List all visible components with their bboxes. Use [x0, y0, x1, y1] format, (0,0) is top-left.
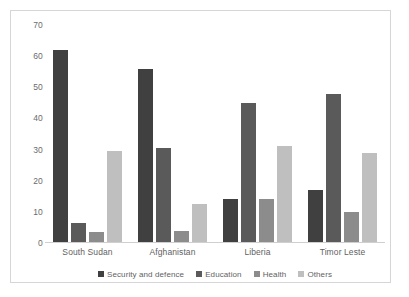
- bar: [192, 204, 207, 243]
- plot-area: [45, 25, 385, 243]
- y-axis-tick-label: 40: [21, 114, 43, 123]
- bar-group: [215, 25, 300, 243]
- bar-group-bars: [300, 25, 385, 243]
- y-axis-tick-label: 10: [21, 207, 43, 216]
- y-axis-tick-label: 20: [21, 176, 43, 185]
- legend-label: Security and defence: [107, 270, 184, 279]
- x-axis-category-label: South Sudan: [45, 245, 130, 261]
- bar-group: [130, 25, 215, 243]
- bar-group-bars: [45, 25, 130, 243]
- y-axis-tick-label: 70: [21, 21, 43, 30]
- chart-legend: Security and defenceEducationHealthOther…: [45, 267, 385, 281]
- legend-label: Education: [205, 270, 241, 279]
- x-axis-category-label: Afghanistan: [130, 245, 215, 261]
- bar-group: [45, 25, 130, 243]
- legend-swatch-icon: [298, 271, 304, 277]
- bar: [326, 94, 341, 243]
- bar: [344, 212, 359, 243]
- chart-frame: 010203040506070 South SudanAfghanistanLi…: [10, 10, 391, 283]
- bar: [259, 199, 274, 243]
- bar: [53, 50, 68, 243]
- bar: [362, 153, 377, 243]
- legend-label: Others: [307, 270, 332, 279]
- bar-groups: [45, 25, 385, 243]
- legend-swatch-icon: [196, 271, 202, 277]
- x-axis-category-label: Timor Leste: [300, 245, 385, 261]
- bar-group-bars: [215, 25, 300, 243]
- bar: [223, 199, 238, 243]
- bar-group: [300, 25, 385, 243]
- bar: [71, 223, 86, 243]
- bar: [138, 69, 153, 243]
- bar: [241, 103, 256, 243]
- bar-chart: 010203040506070 South SudanAfghanistanLi…: [0, 0, 409, 297]
- bar: [156, 148, 171, 243]
- legend-swatch-icon: [254, 271, 260, 277]
- y-axis: 010203040506070: [17, 25, 43, 243]
- y-axis-tick-label: 30: [21, 145, 43, 154]
- legend-item[interactable]: Security and defence: [98, 270, 184, 279]
- legend-item[interactable]: Education: [196, 270, 241, 279]
- y-axis-tick-label: 0: [21, 239, 43, 248]
- bar: [107, 151, 122, 243]
- bar: [308, 190, 323, 243]
- x-axis-labels: South SudanAfghanistanLiberiaTimor Leste: [45, 245, 385, 261]
- bar: [277, 146, 292, 243]
- x-axis-category-label: Liberia: [215, 245, 300, 261]
- y-axis-tick-label: 50: [21, 83, 43, 92]
- legend-item[interactable]: Others: [298, 270, 332, 279]
- legend-label: Health: [263, 270, 287, 279]
- legend-swatch-icon: [98, 271, 104, 277]
- y-axis-tick-label: 60: [21, 52, 43, 61]
- x-axis-line: [45, 242, 385, 243]
- bar-group-bars: [130, 25, 215, 243]
- legend-item[interactable]: Health: [254, 270, 287, 279]
